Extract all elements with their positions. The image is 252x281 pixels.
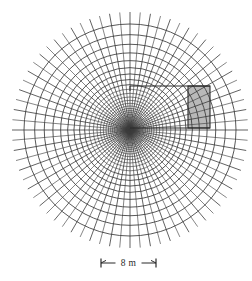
- radial-mesh-figure: 8 m: [0, 0, 252, 281]
- scale-bar-label: 8 m: [121, 258, 137, 268]
- radial-mesh-canvas: 8 m: [0, 0, 252, 281]
